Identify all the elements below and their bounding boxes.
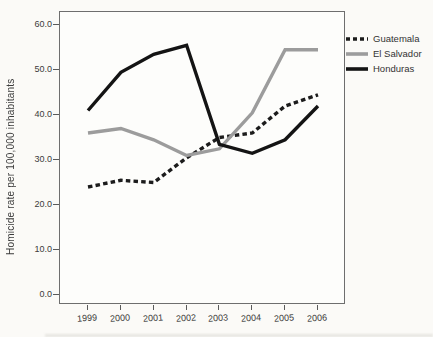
x-tick-mark: [218, 305, 219, 310]
x-tick-label: 2006: [301, 312, 334, 324]
y-tick-label: 20.0: [20, 198, 52, 210]
legend-label: Guatemala: [373, 33, 419, 44]
legend-item-honduras: Honduras: [346, 61, 422, 76]
x-tick-label: 2002: [169, 312, 202, 324]
legend-swatch-el-salvador: [346, 50, 368, 58]
y-tick-mark: [53, 294, 59, 295]
plot-area: [59, 11, 345, 304]
y-axis-title: Homicide rate per 100,000 inhabitants: [4, 55, 18, 279]
y-tick-label: 60.0: [20, 18, 52, 30]
y-tick-mark: [53, 204, 59, 205]
y-tick-label: 0.0: [20, 288, 52, 300]
x-tick-label: 2003: [202, 312, 235, 324]
x-tick-mark: [120, 305, 121, 310]
homicide-rate-line-chart: Homicide rate per 100,000 inhabitants 0.…: [0, 0, 433, 337]
y-tick-mark: [53, 69, 59, 70]
y-tick-mark: [53, 114, 59, 115]
y-tick-label: 50.0: [20, 63, 52, 75]
y-tick-label: 30.0: [20, 153, 52, 165]
x-tick-mark: [186, 305, 187, 310]
x-tick-mark: [87, 305, 88, 310]
y-tick-mark: [53, 24, 59, 25]
x-tick-label: 2005: [268, 312, 301, 324]
legend-label: Honduras: [373, 63, 414, 74]
legend: GuatemalaEl SalvadorHonduras: [346, 31, 422, 76]
y-tick-label: 40.0: [20, 108, 52, 120]
legend-item-el-salvador: El Salvador: [346, 46, 422, 61]
x-tick-mark: [284, 305, 285, 310]
x-tick-mark: [317, 305, 318, 310]
y-tick-label: 10.0: [20, 243, 52, 255]
legend-item-guatemala: Guatemala: [346, 31, 422, 46]
chart-lines-canvas: [60, 12, 344, 303]
x-tick-label: 2001: [136, 312, 169, 324]
x-tick-mark: [251, 305, 252, 310]
x-tick-label: 1999: [71, 312, 104, 324]
legend-swatch-honduras: [346, 65, 368, 73]
legend-swatch-guatemala: [346, 35, 368, 43]
x-tick-label: 2000: [104, 312, 137, 324]
x-tick-mark: [153, 305, 154, 310]
y-tick-mark: [53, 249, 59, 250]
legend-label: El Salvador: [373, 48, 422, 59]
x-tick-label: 2004: [235, 312, 268, 324]
series-line-honduras: [88, 45, 318, 153]
y-tick-mark: [53, 159, 59, 160]
